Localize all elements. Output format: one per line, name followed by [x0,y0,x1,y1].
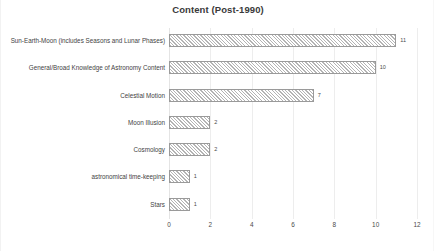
bar-row: 11 [169,28,417,55]
category-label: astronomical time-keeping [92,170,166,183]
chart-figure: Content (Post-1990) 111072211 Sun-Earth-… [0,0,434,251]
x-tick-2: 2 [195,221,225,228]
bar[interactable] [169,61,376,74]
bar-value-label: 2 [214,116,217,129]
x-tick-12: 12 [402,221,432,228]
bar-value-label: 7 [318,89,321,102]
bar[interactable] [169,34,396,47]
chart-title: Content (Post-1990) [1,4,434,15]
x-tick-8: 8 [319,221,349,228]
bar-row: 2 [169,137,417,164]
bar[interactable] [169,116,210,129]
bar-value-label: 11 [400,34,406,47]
x-tick-10: 10 [361,221,391,228]
x-tick-0: 0 [154,221,184,228]
category-label: Celestial Motion [120,89,165,102]
gridline-12 [417,28,418,219]
bar[interactable] [169,89,314,102]
bar-row: 10 [169,55,417,82]
x-axis-tick-labels: 024681012 [1,221,434,235]
bar-row: 1 [169,164,417,191]
bar-series: 111072211 [169,28,417,219]
category-label: Sun-Earth-Moon (includes Seasons and Lun… [11,34,165,47]
plot-area: 111072211 [169,28,417,219]
bar-value-label: 1 [194,198,197,211]
bar-value-label: 10 [380,61,386,74]
x-tick-6: 6 [278,221,308,228]
category-label: General/Broad Knowledge of Astronomy Con… [29,61,165,74]
x-tick-4: 4 [237,221,267,228]
bar-row: 1 [169,192,417,219]
bar[interactable] [169,143,210,156]
bar-row: 7 [169,83,417,110]
bar[interactable] [169,198,190,211]
category-label: Cosmology [134,143,166,156]
bar-value-label: 2 [214,143,217,156]
category-label: Stars [150,198,165,211]
category-label: Moon Illusion [128,116,165,129]
bar-row: 2 [169,110,417,137]
bar-value-label: 1 [194,170,197,183]
bar[interactable] [169,170,190,183]
